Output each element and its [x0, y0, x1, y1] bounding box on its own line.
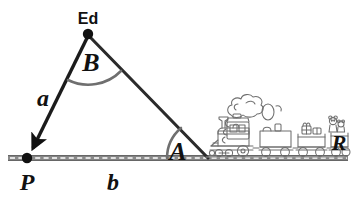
label-train-car-letter: R: [331, 130, 347, 155]
label-side-a: a: [37, 85, 49, 111]
label-angle-a: A: [167, 137, 186, 166]
train-illustration: R: [206, 95, 350, 157]
train-car-2: [296, 123, 331, 156]
vertex-dot-p: [22, 153, 32, 163]
figure-canvas: Ed P B A a b: [0, 0, 351, 204]
geometry-diagram: Ed P B A a b: [0, 0, 351, 204]
triangle-side-hypotenuse: [89, 36, 208, 158]
label-vertex-ed: Ed: [78, 10, 98, 27]
smoke-plume: [222, 95, 281, 143]
label-side-b: b: [107, 169, 119, 195]
label-vertex-p: P: [19, 169, 35, 195]
label-angle-b: B: [81, 48, 99, 77]
train-car-1: [259, 124, 298, 156]
locomotive: [209, 114, 259, 157]
vertex-dot-ed: [83, 29, 93, 39]
